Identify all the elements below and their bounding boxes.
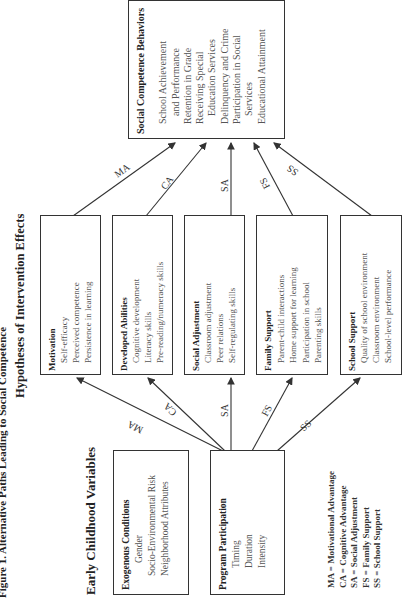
arrow-ss-lower <box>277 378 360 451</box>
mediator-title: Social Adjustment <box>190 283 202 371</box>
mediator-item: Quality of school environment <box>358 253 370 371</box>
figure-title-line1: Figure 1. Alternative Paths Leading to S… <box>0 327 8 598</box>
outcome-item: Participation in Social <box>231 8 243 134</box>
outcome-item: School Achievement <box>157 8 169 134</box>
mediator-item: Pre-reading/numeracy skills <box>154 262 166 371</box>
outcome-item: and Performance <box>170 8 182 134</box>
outcome-item: Education Services <box>206 8 218 134</box>
program-item: Duration <box>243 498 256 590</box>
path-label-sa-lower: SA <box>219 404 230 417</box>
exogenous-item: Neighborhood Attributes <box>159 475 172 590</box>
exogenous-title: Exogenous Conditions <box>120 475 133 590</box>
path-label-sa-upper: SA <box>219 179 230 192</box>
outcome-title: Social Competence Behaviors <box>135 8 147 134</box>
mediator-box-family-support: Family Support Parent-child interactions… <box>256 215 328 375</box>
mediator-item: Literacy skills <box>142 262 154 371</box>
mediator-item: Parent-child interactions <box>275 267 288 371</box>
legend: MA = Motivational Advantage CA = Cogniti… <box>326 471 384 588</box>
mediator-box-developed-abilities: Developed Abilities Cognitive developmen… <box>112 215 173 375</box>
arrow-ma-upper <box>73 143 175 216</box>
outcome-item: Receiving Special <box>194 8 206 134</box>
mediator-item: Self-regulating skills <box>226 283 238 371</box>
program-participation-box: Program Participation Timing Duration In… <box>210 450 285 595</box>
exogenous-item: Socio-Environmental Risk <box>146 475 159 590</box>
mediator-item: Persistence in learning <box>82 282 94 371</box>
program-item: Timing <box>230 498 243 590</box>
arrow-ca-upper <box>146 143 206 216</box>
legend-item: SS = School Support <box>372 471 384 588</box>
arrow-fs-lower <box>252 378 292 451</box>
mediator-item: Peer relations <box>214 283 226 371</box>
arrow-ca-lower <box>148 378 225 451</box>
mediator-box-motivation: Motivation Self-efficacy Perceived compe… <box>40 215 101 375</box>
mediator-item: Self-efficacy <box>58 282 70 371</box>
mediator-item: Cognitive development <box>130 262 142 371</box>
outcome-item: Educational Attainment <box>256 8 268 134</box>
mediator-item: Classroom adjustment <box>202 283 214 371</box>
outcome-box: Social Competence Behaviors School Achie… <box>128 0 285 139</box>
figure-title-line2: Hypotheses of Intervention Effects <box>13 214 28 398</box>
mediator-title: School Support <box>346 253 358 371</box>
mediator-item: Participation in school <box>300 267 313 371</box>
arrow-ss-upper <box>274 143 372 216</box>
legend-item: SA = Social Adjustment <box>349 471 361 588</box>
program-title: Program Participation <box>217 498 230 590</box>
outcome-item: Services <box>243 8 255 134</box>
exogenous-item: Gender <box>133 475 146 590</box>
legend-item: FS = Family Support <box>361 471 373 588</box>
early-childhood-heading: Early Childhood Variables <box>83 447 99 595</box>
outcome-item: Delinquency and Crime <box>219 8 231 134</box>
legend-item: CA = Cognitive Advantage <box>338 471 350 588</box>
mediator-box-social-adjustment: Social Adjustment Classroom adjustment P… <box>184 215 245 375</box>
mediator-item: Home support for learning <box>287 267 300 371</box>
exogenous-box: Exogenous Conditions Gender Socio-Enviro… <box>113 450 189 595</box>
mediator-item: Parenting skills <box>312 267 325 371</box>
mediator-title: Motivation <box>46 282 58 371</box>
mediator-item: School-level performance <box>382 253 394 371</box>
legend-item: MA = Motivational Advantage <box>326 471 338 588</box>
arrow-ma-lower <box>77 378 223 451</box>
program-item: Intensity <box>256 498 269 590</box>
mediator-title: Family Support <box>262 267 275 371</box>
outcome-item: Retention in Grade <box>182 8 194 134</box>
mediator-title: Developed Abilities <box>118 262 130 371</box>
mediator-item: Perceived competence <box>70 282 82 371</box>
mediator-item: Classroom environment <box>370 253 382 371</box>
mediator-box-school-support: School Support Quality of school environ… <box>340 215 402 375</box>
